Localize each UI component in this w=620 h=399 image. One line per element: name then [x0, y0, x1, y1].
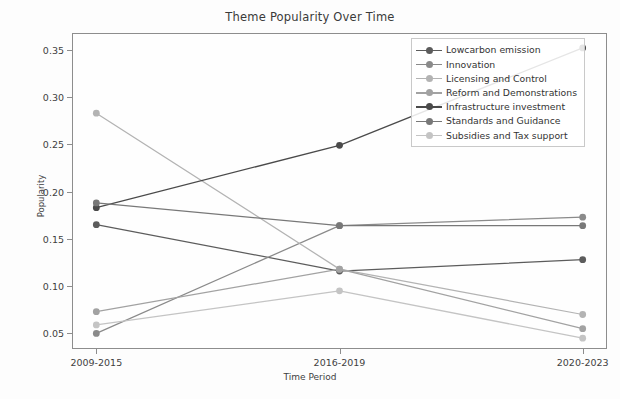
- legend-marker-icon: [416, 72, 442, 84]
- legend-item[interactable]: Standards and Guidance: [416, 114, 577, 128]
- x-tick-mark: [96, 349, 97, 354]
- data-point: [93, 330, 100, 337]
- legend-item-label: Innovation: [446, 60, 495, 69]
- data-point: [336, 287, 343, 294]
- legend-item[interactable]: Infrastructure investment: [416, 100, 577, 114]
- legend-item[interactable]: Lowcarbon emission: [416, 43, 577, 57]
- y-tick-label: 0.05: [18, 328, 64, 339]
- legend-item-label: Lowcarbon emission: [446, 45, 541, 54]
- y-tick-label: 0.10: [18, 281, 64, 292]
- data-point: [336, 222, 343, 229]
- legend-item-label: Reform and Demonstrations: [446, 88, 577, 97]
- legend-item[interactable]: Subsidies and Tax support: [416, 128, 577, 142]
- y-axis-title: Popularity: [36, 146, 46, 246]
- legend-marker-icon: [416, 44, 442, 56]
- legend-item-label: Licensing and Control: [446, 74, 547, 83]
- data-point: [579, 325, 586, 332]
- x-tick-label: 2016-2019: [314, 357, 366, 368]
- legend-marker-icon: [416, 87, 442, 99]
- series-line: [96, 225, 582, 271]
- data-point: [336, 266, 343, 273]
- legend-marker-icon: [416, 58, 442, 70]
- y-tick-label: 0.30: [18, 92, 64, 103]
- data-point: [93, 308, 100, 315]
- legend-item[interactable]: Innovation: [416, 57, 577, 71]
- legend-marker-icon: [416, 115, 442, 127]
- y-tick-label: 0.35: [18, 44, 64, 55]
- x-axis-title: Time Period: [0, 372, 620, 382]
- legend-item[interactable]: Reform and Demonstrations: [416, 86, 577, 100]
- legend-item[interactable]: Licensing and Control: [416, 71, 577, 85]
- legend-marker-icon: [416, 101, 442, 113]
- chart-legend: Lowcarbon emissionInnovationLicensing an…: [411, 38, 585, 147]
- x-tick-mark: [340, 349, 341, 354]
- data-point: [93, 110, 100, 117]
- series-line: [96, 217, 582, 333]
- legend-item-label: Standards and Guidance: [446, 116, 561, 125]
- data-point: [579, 256, 586, 263]
- series-line: [96, 269, 582, 329]
- legend-item-label: Infrastructure investment: [446, 102, 565, 111]
- series-subsidies-and-tax-support: [93, 287, 586, 341]
- data-point: [93, 221, 100, 228]
- x-tick-label: 2009-2015: [70, 357, 122, 368]
- data-point: [579, 214, 586, 221]
- legend-item-label: Subsidies and Tax support: [446, 131, 568, 140]
- data-point: [336, 142, 343, 149]
- data-point: [93, 200, 100, 207]
- series-innovation: [93, 214, 586, 337]
- x-tick-label: 2020-2023: [557, 357, 609, 368]
- data-point: [93, 321, 100, 328]
- series-line: [96, 203, 582, 226]
- series-line: [96, 291, 582, 338]
- data-point: [579, 335, 586, 342]
- x-tick-mark: [583, 349, 584, 354]
- chart-title: Theme Popularity Over Time: [0, 10, 620, 24]
- data-point: [579, 222, 586, 229]
- legend-marker-icon: [416, 129, 442, 141]
- series-standards-and-guidance: [93, 200, 586, 229]
- chart-figure: Theme Popularity Over Time 0.050.100.150…: [0, 0, 620, 399]
- series-reform-and-demonstrations: [93, 266, 586, 332]
- data-point: [579, 311, 586, 318]
